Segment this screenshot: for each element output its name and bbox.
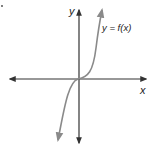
function-graph: y x y = f(x) bbox=[0, 0, 149, 147]
function-curve bbox=[58, 10, 102, 140]
stray-dot bbox=[1, 5, 3, 7]
y-axis-label: y bbox=[68, 5, 76, 17]
x-axis-label: x bbox=[139, 84, 146, 96]
curve-label: y = f(x) bbox=[101, 22, 131, 33]
